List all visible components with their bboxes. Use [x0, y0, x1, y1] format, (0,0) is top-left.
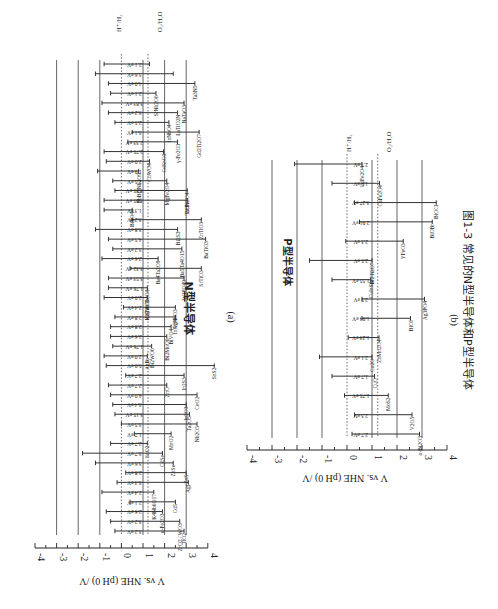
ref-h-label-a: H⁺/H₂ [115, 15, 122, 32]
ref-o-label-b: O₂/H₂O [385, 131, 392, 152]
band-bar: 2.3 eVV2O5 [353, 413, 415, 431]
axis-tick-label: 3 [423, 455, 434, 460]
material-label: Ba5Ta4O15 [179, 251, 185, 278]
material-label: Bi2WO6 [149, 348, 155, 368]
material-label: ZnMn2O4 [376, 339, 382, 362]
band-gap-label: 3.7 eV [127, 451, 142, 457]
band-gap-label: 2.91 eV [352, 220, 369, 226]
axis-tick-label: 2 [398, 455, 409, 460]
band-gap-label: 1.94 eV [352, 316, 369, 322]
band-gap-label: 3.2 eV [127, 519, 142, 525]
axis-tick-label: -3 [273, 455, 284, 463]
material-label: BiOBr [429, 224, 435, 239]
band-gap-label: 3.53 eV [126, 276, 143, 282]
band-bar: 3.4 eVIn2O3 [113, 402, 189, 420]
material-label: ZrO2 / WO3 [177, 523, 183, 551]
material-label: CdS [172, 504, 178, 513]
material-label: BaTiO3 [203, 241, 209, 259]
band-bar: 3.15 eVTa2O5 [115, 412, 193, 431]
band-gap-label: 2.8 eV [127, 315, 142, 321]
band-gap-label: 2.1 eV [127, 500, 142, 506]
material-label: Cu2O [369, 359, 375, 372]
band-gap-label: 3.8 eV [127, 227, 142, 233]
axis-tick-label: 0 [122, 553, 133, 558]
material-label: K4Nb6O17 [151, 494, 157, 520]
band-gap-label: 2.7 eV [127, 441, 142, 447]
band-bar: 1.55 eVCuInS2 [332, 278, 374, 299]
material-label: CaFe2O4 [377, 185, 383, 206]
axis-tick-label: 0 [348, 455, 359, 460]
band-gap-label: 1.23 eV [352, 335, 369, 341]
band-gap-label: 2.8 eV [127, 470, 142, 476]
axis-tick-label: 1 [144, 553, 155, 558]
band-gap-label: 2.7 eV [127, 373, 142, 379]
band-gap-label: 3.15 eV [126, 412, 143, 418]
band-bar: 3.6 eV [95, 72, 173, 78]
material-label: InNbO4 [166, 124, 172, 142]
material-label: MoS2 [385, 397, 391, 411]
band-gap-label: 2.4 eV [127, 305, 142, 311]
band-gap-label: 2.1 eV [127, 62, 142, 68]
axis-tick-label: 1 [373, 455, 384, 460]
band-gap-label: 2.0 eV [127, 295, 142, 301]
band-gap-label: 2.7 eV [127, 383, 142, 389]
band-gap-label: 2.5 eV [127, 120, 142, 126]
band-gap-label: 4.0 eV [127, 393, 142, 399]
band-gap-label: 2.6 eV [127, 509, 142, 515]
band-gap-label: 2.0 eV [127, 159, 142, 165]
band-gap-label: 1.7 eV [353, 374, 368, 380]
band-gap-label: 4.0 eV [127, 81, 142, 87]
material-label: NaTaO3 [181, 105, 187, 124]
ref-h-label-b: H⁺/H₂ [345, 135, 352, 152]
band-bar: 1.9 eVPbBi2Nb2O9 [98, 169, 142, 203]
band-gap-label: 3.4 eV [127, 402, 142, 408]
band-bars-b: 2.7 eVα-Bi2O32.3 eVV2O51.75 eVMoS21.7 eV… [295, 162, 440, 456]
band-gap-label: 3.32 eV [126, 266, 143, 272]
material-label: In(Nb/Ta)O4 [144, 290, 151, 319]
band-gap-label: 2.7 eV [353, 432, 368, 438]
material-label: SnO2 [144, 445, 150, 458]
panel-a-title: N型半导体 [182, 281, 196, 335]
band-bar: 1.75 eVMoS2 [345, 393, 392, 411]
material-label: Ba4Ta2O9 [155, 260, 161, 284]
band-gap-label: 3.5 eV [127, 422, 142, 428]
material-label: V2O5 [409, 416, 415, 430]
axis-tick-label: -4 [248, 455, 259, 463]
band-gap-label: 1.76 eV [126, 344, 143, 350]
material-label: In2O3 [183, 406, 189, 420]
material-label: MgFe2O4 [164, 183, 170, 206]
material-label: CuWO4 [146, 163, 152, 182]
material-label: Bi2Ti2O7 [369, 262, 375, 284]
potential-axis-a: -4-3-2-101234 [35, 543, 220, 561]
axis-tick-label: -1 [323, 455, 334, 463]
axis-tick-label: 4 [209, 553, 220, 558]
ref-o-label-a: O₂/H₂O [156, 11, 163, 32]
material-label: α-Fe2O3 [159, 513, 165, 533]
axis-tick-label: 4 [448, 455, 459, 460]
band-gap-label: 2.6 eV [127, 256, 142, 262]
band-gap-label: 2.3 eV [353, 413, 368, 419]
band-bar: 2.91 eVBiOBr [352, 220, 435, 239]
material-label: PbBi2Nb2O9 [136, 173, 142, 203]
axis-tick-label: -2 [79, 553, 90, 561]
band-gap-label: 3.6 eV [127, 72, 142, 78]
material-label: SnS2 [211, 367, 217, 379]
material-label: ZnFe2O4 [184, 192, 190, 213]
band-gap-label: 3.83 eV [126, 101, 143, 107]
material-label: AgNbO3 [172, 309, 178, 329]
material-label: ZnO [164, 387, 170, 397]
potential-axis-b: -4-3-2-101234 [247, 445, 459, 463]
band-gap-label: 2.33 eV [126, 140, 143, 146]
axis-tick-label: -1 [101, 553, 112, 561]
band-gap-label: 4.5 eV [127, 237, 142, 243]
band-bar: 1.94 eVBiOI [352, 316, 413, 331]
band-gap-label: 2.8 eV [127, 324, 142, 330]
panel-b-axis-label: V vs. NHE (pH 0) /V [302, 472, 388, 484]
band-bar: 1.7 eVCuO [332, 374, 378, 389]
material-label: LaTiO2N [175, 115, 181, 136]
axis-tick-label: 2 [166, 553, 177, 558]
band-gap-label: 2.75 eV [126, 149, 143, 155]
band-bar: 3.85 eVTaON [104, 198, 190, 216]
material-label: γ-Fe2O3 [175, 144, 181, 164]
band-bar: 3.2 eVBa5Ta4O15 [113, 247, 185, 278]
